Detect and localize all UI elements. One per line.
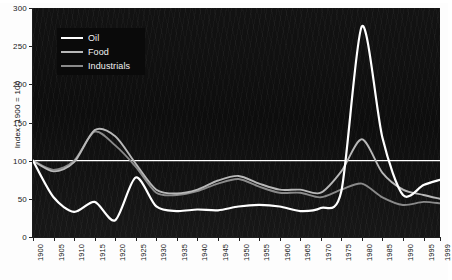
x-tick-label: 1920 [118,244,127,261]
legend-label: Industrials [88,62,130,71]
x-tick-label: 1945 [221,244,230,261]
x-tick-mark [341,237,342,241]
x-tick-label: 1925 [139,244,148,261]
y-tick-label: 200 [13,80,27,89]
x-tick-mark [74,237,75,241]
x-tick-label: 1955 [262,244,271,261]
legend-label: Oil [88,34,99,43]
y-tick-mark [29,123,33,124]
y-tick-mark [29,46,33,47]
x-tick-mark [33,237,34,241]
x-tick-mark [177,237,178,241]
figure-top-edge [0,0,448,3]
x-tick-label: 1910 [77,244,86,261]
x-tick-mark [197,237,198,241]
x-tick-mark [136,237,137,241]
series-line-food [33,129,440,199]
legend-swatch-industrials [61,65,83,67]
x-tick-label: 1940 [200,244,209,261]
legend-swatch-food [61,51,83,53]
x-tick-mark [54,237,55,241]
legend-swatch-oil [61,37,83,39]
x-tick-label: 1900 [36,244,45,261]
x-tick-label: 1970 [324,244,333,261]
x-tick-mark [382,237,383,241]
y-tick-label: 150 [13,118,27,127]
x-tick-label: 1960 [283,244,292,261]
x-tick-mark [95,237,96,241]
x-tick-label: 1999 [443,244,452,261]
x-tick-mark [280,237,281,241]
x-tick-mark [259,237,260,241]
chart-legend: OilFoodIndustrials [57,28,145,75]
x-tick-mark [424,237,425,241]
x-tick-mark [239,237,240,241]
x-tick-mark [218,237,219,241]
y-tick-mark [29,8,33,9]
y-tick-label: 0 [22,233,27,242]
x-tick-label: 1965 [303,244,312,261]
x-tick-label: 1915 [98,244,107,261]
y-tick-mark [29,161,33,162]
y-tick-label: 300 [13,4,27,13]
legend-item-food: Food [61,45,141,59]
x-tick-mark [362,237,363,241]
y-tick-label: 100 [13,156,27,165]
x-tick-label: 1995 [427,244,436,261]
x-tick-label: 1980 [365,244,374,261]
x-tick-label: 1950 [242,244,251,261]
y-tick-mark [29,84,33,85]
x-tick-mark [403,237,404,241]
x-tick-label: 1935 [180,244,189,261]
x-tick-label: 1905 [57,244,66,261]
legend-item-industrials: Industrials [61,59,141,73]
y-tick-label: 250 [13,42,27,51]
y-tick-mark [29,199,33,200]
legend-label: Food [88,48,109,57]
x-tick-mark [156,237,157,241]
y-axis: Index: 1900 = 100 050100150200250300 [0,0,33,245]
x-tick-label: 1975 [344,244,353,261]
x-tick-mark [440,237,441,241]
x-tick-label: 1930 [159,244,168,261]
x-tick-mark [300,237,301,241]
x-axis: 1900190519101915192019251930193519401945… [33,237,440,280]
x-tick-label: 1985 [385,244,394,261]
x-tick-mark [115,237,116,241]
x-tick-mark [321,237,322,241]
x-tick-label: 1990 [406,244,415,261]
y-tick-label: 50 [18,194,27,203]
legend-item-oil: Oil [61,31,141,45]
